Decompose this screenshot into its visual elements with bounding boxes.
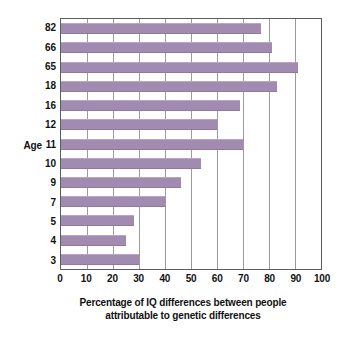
- y-tick-label: 7: [26, 193, 58, 212]
- y-tick-label: 82: [26, 18, 58, 37]
- y-tick-label: 12: [26, 115, 58, 134]
- bar-slot: [61, 211, 321, 230]
- bar: [61, 62, 298, 73]
- plot-area: [60, 18, 322, 270]
- bar: [61, 254, 139, 265]
- bar: [61, 23, 261, 34]
- y-axis-tick-labels: 826665181612111097543: [26, 18, 58, 270]
- x-axis-title-line: Percentage of IQ differences between peo…: [28, 296, 338, 309]
- bar-slot: [61, 57, 321, 76]
- x-tick-label: 0: [57, 273, 62, 284]
- y-tick-label: 66: [26, 37, 58, 56]
- bar-slot: [61, 250, 321, 269]
- bar-slot: [61, 77, 321, 96]
- x-axis-title-line: attributable to genetic differences: [28, 309, 338, 322]
- x-axis-title: Percentage of IQ differences between peo…: [28, 296, 338, 322]
- bar-slot: [61, 96, 321, 115]
- y-tick-label: 3: [26, 251, 58, 270]
- x-tick-label: 50: [186, 273, 197, 284]
- y-tick-label: 65: [26, 57, 58, 76]
- x-tick-label: 30: [133, 273, 144, 284]
- bar: [61, 139, 243, 150]
- bar: [61, 158, 201, 169]
- bar-slot: [61, 38, 321, 57]
- y-tick-label: 16: [26, 96, 58, 115]
- bar: [61, 196, 165, 207]
- bar-slot: [61, 19, 321, 38]
- gridline: [321, 19, 322, 269]
- y-tick-label: 18: [26, 76, 58, 95]
- bar: [61, 215, 134, 226]
- bar: [61, 81, 277, 92]
- y-tick-label: 9: [26, 173, 58, 192]
- bar: [61, 235, 126, 246]
- bar-chart: Age 826665181612111097543 01020304050607…: [0, 0, 356, 338]
- y-tick-label: 5: [26, 212, 58, 231]
- x-tick-label: 90: [290, 273, 301, 284]
- y-tick-label: 11: [26, 134, 58, 153]
- bar: [61, 42, 272, 53]
- bar: [61, 100, 240, 111]
- bar: [61, 119, 217, 130]
- x-tick-label: 40: [159, 273, 170, 284]
- bar-slot: [61, 173, 321, 192]
- bar: [61, 177, 181, 188]
- x-tick-label: 60: [212, 273, 223, 284]
- x-tick-label: 100: [314, 273, 330, 284]
- y-tick-label: 4: [26, 231, 58, 250]
- bar-slot: [61, 154, 321, 173]
- x-axis-tick-labels: 0102030405060708090100: [60, 273, 322, 287]
- x-tick-label: 20: [107, 273, 118, 284]
- bar-slot: [61, 134, 321, 153]
- x-tick-label: 10: [81, 273, 92, 284]
- bar-slot: [61, 231, 321, 250]
- x-tick-label: 80: [264, 273, 275, 284]
- bar-slot: [61, 192, 321, 211]
- bar-slot: [61, 115, 321, 134]
- bars-layer: [61, 19, 321, 269]
- y-tick-label: 10: [26, 154, 58, 173]
- x-tick-label: 70: [238, 273, 249, 284]
